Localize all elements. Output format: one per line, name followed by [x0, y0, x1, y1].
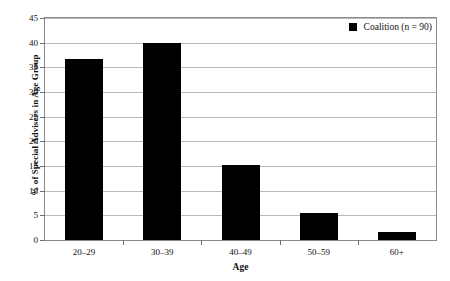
bar [378, 232, 416, 240]
bar [222, 165, 260, 240]
bar-chart-figure: % of Special Advisers in Age Group 05101… [0, 0, 450, 281]
bar [65, 59, 103, 240]
y-axis-tick-label: 35 [29, 62, 38, 72]
x-axis-tick [280, 240, 281, 245]
y-axis-tick [40, 43, 45, 44]
bar [143, 43, 181, 240]
y-gridline [45, 67, 436, 68]
x-axis-tick [123, 240, 124, 245]
y-gridline [45, 92, 436, 93]
y-axis-tick [40, 166, 45, 167]
plot-area: 05101520253035404520–2930–3940–4950–5960… [44, 17, 437, 241]
y-gridline [45, 141, 436, 142]
y-axis-tick [40, 141, 45, 142]
y-axis-tick-label: 40 [29, 38, 38, 48]
legend-label: Coalition (n = 90) [364, 22, 432, 32]
x-axis-tick [358, 240, 359, 245]
legend-swatch-icon [349, 23, 357, 31]
y-gridline [45, 117, 436, 118]
y-axis-tick-label: 15 [29, 161, 38, 171]
y-axis-tick [40, 67, 45, 68]
y-axis-tick [40, 92, 45, 93]
bar [300, 213, 338, 240]
x-axis-tick-label: 50–59 [307, 247, 330, 257]
x-axis-title: Age [44, 262, 437, 272]
y-axis-tick-label: 25 [29, 112, 38, 122]
y-axis-tick-label: 20 [29, 136, 38, 146]
chart-legend: Coalition (n = 90) [349, 22, 432, 32]
y-axis-tick-label: 10 [29, 186, 38, 196]
y-gridline [45, 18, 436, 19]
y-axis-tick-label: 45 [29, 13, 38, 23]
x-axis-tick-label: 20–29 [73, 247, 96, 257]
y-axis-tick [40, 18, 45, 19]
x-axis-tick-label: 60+ [390, 247, 404, 257]
x-axis-tick-label: 40–49 [229, 247, 252, 257]
y-axis-tick-label: 30 [29, 87, 38, 97]
x-axis-tick [201, 240, 202, 245]
x-axis-tick-label: 30–39 [151, 247, 174, 257]
y-axis-tick [40, 191, 45, 192]
y-axis-tick [40, 240, 45, 241]
y-gridline [45, 43, 436, 44]
y-axis-tick [40, 117, 45, 118]
y-axis-tick-label: 0 [34, 235, 39, 245]
y-axis-tick [40, 215, 45, 216]
y-axis-tick-label: 5 [34, 210, 39, 220]
